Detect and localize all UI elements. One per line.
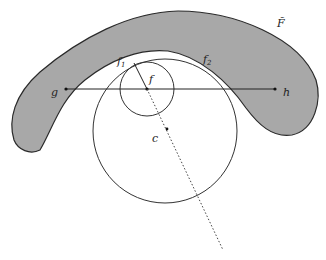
label-f: f bbox=[148, 73, 155, 86]
label-g: g bbox=[51, 86, 58, 99]
radius-segment bbox=[134, 63, 147, 89]
shaded-region bbox=[12, 11, 318, 152]
label-region: F̃ bbox=[276, 17, 285, 30]
dotted-ray bbox=[147, 89, 223, 250]
point-c bbox=[166, 128, 169, 131]
point-h bbox=[273, 87, 276, 90]
large-circle bbox=[93, 59, 237, 203]
geometry-diagram: F̃ f1 f2 f g h c bbox=[0, 0, 326, 260]
label-c: c bbox=[152, 132, 158, 145]
label-h: h bbox=[283, 86, 290, 99]
point-g bbox=[64, 87, 67, 90]
